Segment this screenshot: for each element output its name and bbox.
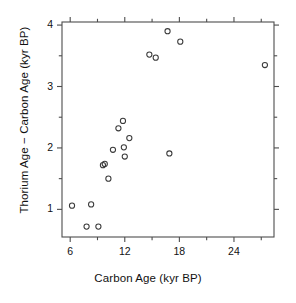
y-tick-label: 3 <box>22 80 53 92</box>
data-point <box>127 136 132 141</box>
axis-ticks <box>57 17 279 242</box>
data-point <box>167 151 172 156</box>
data-point <box>96 224 101 229</box>
data-point <box>89 202 94 207</box>
data-point <box>84 224 89 229</box>
data-point <box>106 176 111 181</box>
data-points <box>69 29 267 230</box>
y-tick-label: 1 <box>22 202 53 214</box>
data-point <box>262 62 267 67</box>
data-point <box>122 154 127 159</box>
data-point <box>110 147 115 152</box>
data-point <box>120 118 125 123</box>
data-point <box>153 55 158 60</box>
data-point <box>147 52 152 57</box>
x-tick-label: 24 <box>214 245 254 257</box>
data-point <box>178 39 183 44</box>
scatter-plot-figure: Thorium Age − Carbon Age (kyr BP) Carbon… <box>0 0 296 303</box>
x-tick-label: 18 <box>159 245 199 257</box>
x-tick-label: 6 <box>50 245 90 257</box>
data-point <box>121 145 126 150</box>
x-tick-label: 12 <box>105 245 145 257</box>
y-tick-label: 4 <box>22 18 53 30</box>
data-point <box>116 126 121 131</box>
y-tick-label: 2 <box>22 141 53 153</box>
data-point <box>165 29 170 34</box>
data-point <box>69 203 74 208</box>
